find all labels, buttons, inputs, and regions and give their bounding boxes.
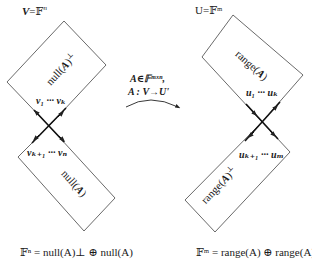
left-decomposition: 𝔽ⁿ = null(A)⊥ ⊕ null(A) <box>20 247 133 258</box>
diagram-canvas <box>0 0 312 265</box>
right-space-label: U=𝔽ᵐ <box>195 5 222 16</box>
right-decomposition: 𝔽ᵐ = range(A) ⊕ range(A)⊥ <box>196 247 312 258</box>
left-upper-vectors: v₁ ··· vₖ <box>36 96 66 106</box>
map-label: A : V→U' <box>128 87 169 97</box>
range-perp-region <box>185 122 290 232</box>
left-space-label: V=𝔽n <box>22 6 47 17</box>
left-lower-vectors: vₖ₊₁ ··· vₙ <box>27 148 67 158</box>
matrix-label: A∈𝔽ᵐˣⁿ, <box>130 74 165 84</box>
right-lower-vectors: uₖ₊₁ ··· uₘ <box>239 150 284 160</box>
mapping-arrow-icon <box>126 100 178 107</box>
right-upper-vectors: u₁ ··· uₖ <box>246 88 278 98</box>
